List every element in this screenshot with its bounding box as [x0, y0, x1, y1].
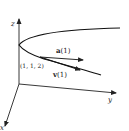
y-axis-label: y: [107, 96, 113, 104]
x-axis-label: x: [0, 124, 4, 131]
diagram-canvas: z y x (1, 1, 2) a(1) v(1): [0, 0, 129, 131]
x-axis: [5, 84, 19, 126]
point-label: (1, 1, 2): [20, 62, 44, 69]
z-axis-label: z: [10, 20, 15, 28]
velocity-label: v(1): [52, 70, 67, 79]
y-axis: [19, 84, 116, 93]
acceleration-label: a(1): [56, 46, 71, 55]
space-curve-diagram: z y x (1, 1, 2) a(1) v(1): [0, 0, 129, 131]
